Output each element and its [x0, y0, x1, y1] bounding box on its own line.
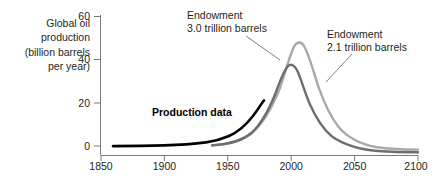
endowment-3-0-annotation: Endowment 3.0 trillion barrels [187, 9, 267, 34]
leader-line-endowment-2-1 [326, 54, 352, 82]
endowment-2-1-annotation-line-2: 2.1 trillion barrels [327, 41, 407, 54]
leader-line-endowment-3-0 [246, 36, 280, 60]
x-tick-label-2050: 2050 [335, 160, 375, 172]
y-axis-title-line-2: production [4, 30, 90, 44]
endowment-3-0-annotation-line-2: 3.0 trillion barrels [187, 22, 267, 35]
y-tick-label-20: 20 [64, 97, 90, 109]
y-tick-label-40: 40 [64, 53, 90, 65]
y-tick-label-0: 0 [64, 140, 90, 152]
endowment-2-1-annotation: Endowment 2.1 trillion barrels [327, 28, 407, 53]
endowment-3-0-annotation-line-1: Endowment [187, 9, 267, 22]
x-tick-label-2000: 2000 [271, 160, 311, 172]
endowment-2-1-annotation-line-1: Endowment [327, 28, 407, 41]
x-tick-label-1850: 1850 [81, 160, 121, 172]
x-tick-label-1950: 1950 [208, 160, 248, 172]
x-tick-label-1900: 1900 [144, 160, 184, 172]
series-endowment-3-0-line [212, 42, 418, 149]
production-data-annotation: Production data [152, 106, 232, 118]
oil-production-chart: Global oil production (billion barrels p… [0, 0, 434, 186]
x-tick-label-2100: 2100 [396, 160, 434, 172]
y-tick-label-60: 60 [64, 10, 90, 22]
